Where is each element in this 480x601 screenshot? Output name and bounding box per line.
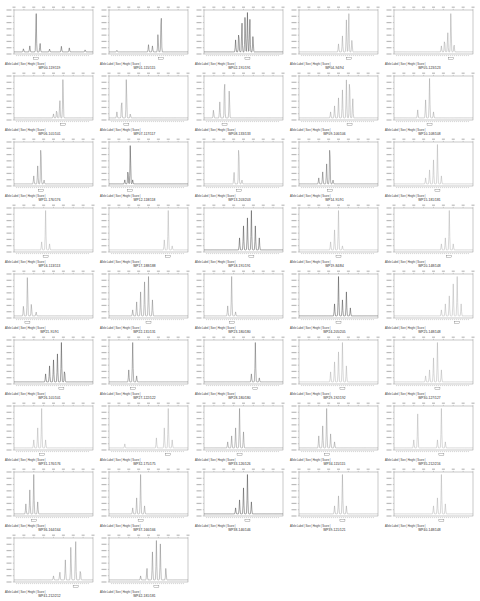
electropherogram-panel: Allele Label | Size | Height | Score |WP… bbox=[194, 468, 285, 532]
electropherogram-panel: Allele Label | Size | Height | Score |WP… bbox=[194, 6, 285, 70]
locus-label: WP42-181/181 bbox=[99, 594, 190, 598]
chromatogram-plot bbox=[99, 468, 190, 526]
locus-label: WP27-122/122 bbox=[99, 396, 190, 400]
electropherogram-panel: Allele Label | Size | Height | Score |WP… bbox=[4, 138, 95, 202]
electropherogram-panel: Allele Label | Size | Height | Score |WP… bbox=[194, 138, 285, 202]
chromatogram-plot bbox=[194, 270, 285, 328]
electropherogram-panel: Allele Label | Size | Height | Score |WP… bbox=[384, 138, 475, 202]
locus-label: WP12-118/118 bbox=[99, 198, 190, 202]
chromatogram-plot bbox=[194, 204, 285, 262]
chromatogram-plot bbox=[289, 6, 380, 64]
electropherogram-panel: Allele Label | Size | Height | Score |WP… bbox=[4, 6, 95, 70]
chromatogram-plot bbox=[4, 468, 95, 526]
locus-label: WP24-205/205 bbox=[289, 330, 380, 334]
chromatogram-plot bbox=[384, 270, 475, 328]
locus-label: WP11-176/176 bbox=[4, 198, 95, 202]
locus-label: WP04-94/94 bbox=[289, 66, 380, 70]
locus-label: WP25-148/148 bbox=[384, 330, 475, 334]
chromatogram-plot bbox=[194, 402, 285, 460]
locus-label: WP06-101/101 bbox=[4, 132, 95, 136]
locus-label: WP10-108/108 bbox=[384, 132, 475, 136]
electropherogram-panel: Allele Label | Size | Height | Score |WP… bbox=[99, 468, 190, 532]
locus-label: WP22-131/131 bbox=[99, 330, 190, 334]
locus-label: WP39-121/121 bbox=[289, 528, 380, 532]
chromatogram-plot bbox=[99, 138, 190, 196]
electropherogram-panel: Allele Label | Size | Height | Score |WP… bbox=[289, 336, 380, 400]
chromatogram-plot bbox=[194, 468, 285, 526]
chromatogram-plot bbox=[4, 204, 95, 262]
locus-label: WP38-146/146 bbox=[194, 528, 285, 532]
locus-label: WP33-126/126 bbox=[194, 462, 285, 466]
electropherogram-panel: Allele Label | Size | Height | Score |WP… bbox=[289, 468, 380, 532]
chromatogram-plot bbox=[4, 402, 95, 460]
locus-label: WP28-180/180 bbox=[194, 396, 285, 400]
chromatogram-plot bbox=[289, 138, 380, 196]
chromatogram-plot bbox=[289, 270, 380, 328]
chromatogram-plot bbox=[289, 72, 380, 130]
chromatogram-plot bbox=[194, 336, 285, 394]
locus-label: WP15-181/181 bbox=[384, 198, 475, 202]
electropherogram-panel: Allele Label | Size | Height | Score |WP… bbox=[99, 534, 190, 598]
chromatogram-plot bbox=[194, 138, 285, 196]
chromatogram-plot bbox=[384, 6, 475, 64]
electropherogram-panel: Allele Label | Size | Height | Score |WP… bbox=[99, 138, 190, 202]
chromatogram-plot bbox=[99, 402, 190, 460]
locus-label: WP05-123/123 bbox=[384, 66, 475, 70]
electropherogram-panel: Allele Label | Size | Height | Score |WP… bbox=[4, 72, 95, 136]
locus-label: WP26-101/101 bbox=[4, 396, 95, 400]
electropherogram-panel: Allele Label | Size | Height | Score |WP… bbox=[99, 336, 190, 400]
locus-label: WP37-166/166 bbox=[99, 528, 190, 532]
locus-label: WP31-176/176 bbox=[4, 462, 95, 466]
locus-label: WP32-175/175 bbox=[99, 462, 190, 466]
chromatogram-plot bbox=[4, 72, 95, 130]
chromatogram-plot bbox=[99, 204, 190, 262]
chromatogram-plot bbox=[4, 270, 95, 328]
electropherogram-panel: Allele Label | Size | Height | Score |WP… bbox=[289, 402, 380, 466]
chromatogram-plot bbox=[384, 138, 475, 196]
locus-label: WP02-191/191 bbox=[194, 66, 285, 70]
electropherogram-panel: Allele Label | Size | Height | Score |WP… bbox=[99, 6, 190, 70]
locus-label: WP16-113/113 bbox=[4, 264, 95, 268]
locus-label: WP01-115/115 bbox=[99, 66, 190, 70]
electropherogram-panel: Allele Label | Size | Height | Score |WP… bbox=[4, 534, 95, 598]
electropherogram-panel: Allele Label | Size | Height | Score |WP… bbox=[384, 336, 475, 400]
electropherogram-panel: Allele Label | Size | Height | Score |WP… bbox=[99, 72, 190, 136]
electropherogram-panel: Allele Label | Size | Height | Score |WP… bbox=[194, 336, 285, 400]
locus-label: WP29-192/192 bbox=[289, 396, 380, 400]
chromatogram-plot bbox=[4, 138, 95, 196]
locus-label: WP35-212/216 bbox=[384, 462, 475, 466]
locus-label: WP30-127/127 bbox=[384, 396, 475, 400]
chromatogram-plot bbox=[99, 72, 190, 130]
locus-label: WP00-119/119 bbox=[4, 66, 95, 70]
electropherogram-panel: Allele Label | Size | Height | Score |WP… bbox=[4, 468, 95, 532]
chromatogram-plot bbox=[99, 534, 190, 592]
locus-label: WP23-180/180 bbox=[194, 330, 285, 334]
electropherogram-panel: Allele Label | Size | Height | Score |WP… bbox=[289, 270, 380, 334]
electropherogram-panel: Allele Label | Size | Height | Score |WP… bbox=[289, 6, 380, 70]
locus-label: WP09-106/106 bbox=[289, 132, 380, 136]
electropherogram-panel: Allele Label | Size | Height | Score |WP… bbox=[194, 204, 285, 268]
chromatogram-plot bbox=[289, 336, 380, 394]
electropherogram-panel: Allele Label | Size | Height | Score |WP… bbox=[384, 204, 475, 268]
chromatogram-plot bbox=[99, 270, 190, 328]
electropherogram-panel: Allele Label | Size | Height | Score |WP… bbox=[384, 468, 475, 532]
locus-label: WP19-84/84 bbox=[289, 264, 380, 268]
locus-label: WP13-203/203 bbox=[194, 198, 285, 202]
electropherogram-panel: Allele Label | Size | Height | Score |WP… bbox=[384, 270, 475, 334]
electropherogram-panel: Allele Label | Size | Height | Score |WP… bbox=[194, 72, 285, 136]
chromatogram-plot bbox=[384, 402, 475, 460]
electropherogram-panel: Allele Label | Size | Height | Score |WP… bbox=[289, 138, 380, 202]
chromatogram-plot bbox=[289, 402, 380, 460]
chromatogram-plot bbox=[289, 468, 380, 526]
electropherogram-panel: Allele Label | Size | Height | Score |WP… bbox=[289, 72, 380, 136]
chromatogram-plot bbox=[4, 6, 95, 64]
electropherogram-panel: Allele Label | Size | Height | Score |WP… bbox=[99, 204, 190, 268]
locus-label: WP18-191/191 bbox=[194, 264, 285, 268]
chromatogram-plot bbox=[289, 204, 380, 262]
chromatogram-plot bbox=[384, 204, 475, 262]
chromatogram-plot bbox=[384, 468, 475, 526]
chromatogram-plot bbox=[4, 336, 95, 394]
locus-label: WP14-91/91 bbox=[289, 198, 380, 202]
chromatogram-plot bbox=[194, 6, 285, 64]
locus-label: WP08-133/133 bbox=[194, 132, 285, 136]
